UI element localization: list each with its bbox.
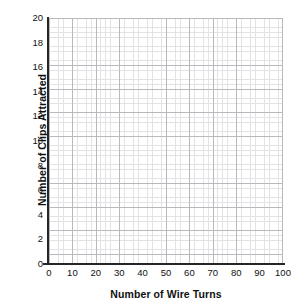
x-tick-label: 90 [247,268,273,278]
x-tick-label: 50 [153,268,179,278]
y-tick-label: 2 [21,234,43,244]
blank-graph-chart: Number of Clips Attracted 02468101214161… [0,0,301,308]
y-tick-label: 12 [21,111,43,121]
x-tick-label: 20 [83,268,109,278]
x-axis-title: Number of Wire Turns [49,288,283,300]
x-tick-label: 10 [59,268,85,278]
y-tick-label: 4 [21,210,43,220]
x-tick-label: 80 [223,268,249,278]
x-tick-label: 70 [200,268,226,278]
y-tick-label: 20 [21,13,43,23]
x-axis-line [43,263,285,265]
y-tick-label: 8 [21,161,43,171]
y-tick-label: 16 [21,62,43,72]
y-axis-line [47,17,49,265]
y-tick-label: 18 [21,38,43,48]
plot-top-edge [49,18,283,19]
y-tick-label: 6 [21,185,43,195]
x-tick-label: 60 [176,268,202,278]
x-tick-label: 40 [130,268,156,278]
plot-grid-area [49,18,283,264]
x-tick-label: 100 [270,268,296,278]
x-tick-label: 30 [106,268,132,278]
y-tick-label: 10 [21,136,43,146]
y-tick-label: 14 [21,87,43,97]
x-tick-label: 0 [36,268,62,278]
plot-right-edge [282,18,283,264]
